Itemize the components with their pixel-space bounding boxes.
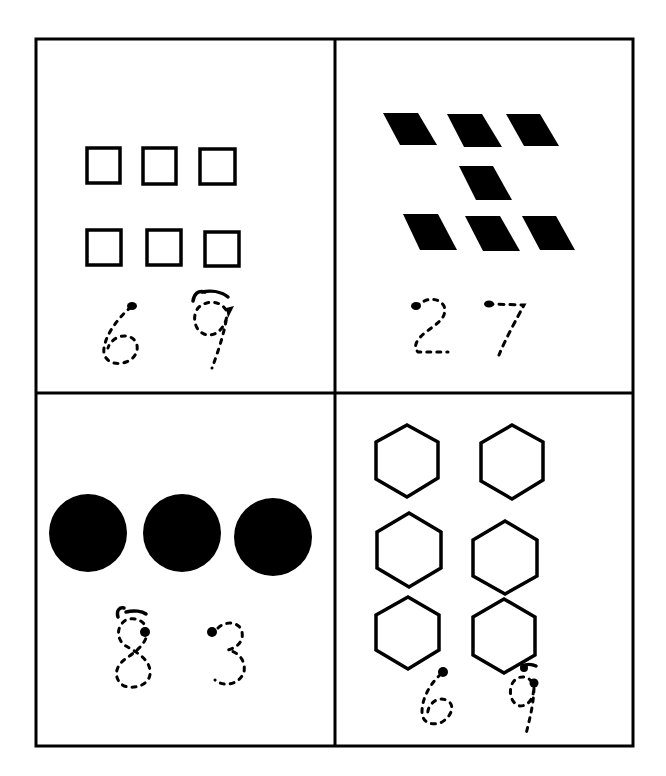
circle-shape bbox=[49, 494, 127, 572]
trace-digit-6[interactable] bbox=[422, 667, 452, 724]
panel-top-right bbox=[383, 113, 575, 355]
panel-top-left bbox=[87, 148, 239, 368]
trace-digit-2[interactable] bbox=[411, 299, 448, 352]
panel-bottom-right bbox=[376, 425, 543, 734]
parallelogram-shape bbox=[506, 114, 559, 146]
circle-group bbox=[49, 494, 312, 576]
trace-digit-8[interactable] bbox=[117, 608, 151, 687]
hexagon-shape bbox=[481, 425, 543, 499]
trace-digit-9[interactable] bbox=[510, 664, 538, 734]
parallelogram-shape bbox=[522, 216, 575, 250]
hexagon-group bbox=[376, 425, 543, 673]
square-shape bbox=[205, 232, 239, 266]
parallelogram-shape bbox=[447, 114, 502, 147]
trace-digit-6[interactable] bbox=[104, 302, 137, 363]
trace-digit-3[interactable] bbox=[207, 623, 244, 684]
hexagon-shape bbox=[377, 513, 441, 587]
trace-digit-7[interactable] bbox=[484, 301, 524, 356]
parallelogram-shape bbox=[403, 214, 457, 250]
circle-shape bbox=[234, 498, 312, 576]
square-shape bbox=[143, 148, 176, 184]
parallelogram-shape bbox=[383, 113, 437, 145]
square-shape bbox=[200, 149, 235, 184]
parallelogram-group bbox=[383, 113, 575, 251]
circle-shape bbox=[143, 494, 221, 572]
parallelogram-shape bbox=[459, 166, 512, 200]
square-shape bbox=[87, 230, 121, 265]
square-shape bbox=[87, 148, 120, 183]
panel-bottom-left bbox=[49, 494, 312, 687]
hexagon-shape bbox=[473, 599, 535, 673]
square-group bbox=[87, 148, 239, 266]
hexagon-shape bbox=[376, 425, 438, 497]
parallelogram-shape bbox=[465, 216, 520, 251]
worksheet-canvas bbox=[0, 0, 666, 776]
counting-worksheet bbox=[0, 0, 666, 776]
square-shape bbox=[147, 230, 181, 265]
trace-digit-9[interactable] bbox=[193, 291, 234, 368]
hexagon-shape bbox=[376, 597, 439, 669]
hexagon-shape bbox=[473, 521, 537, 594]
